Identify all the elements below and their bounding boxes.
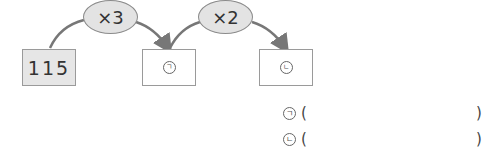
start-value-box: 115 [22, 49, 76, 86]
answer-line-b[interactable]: ㄴ ( ) [283, 130, 483, 150]
open-paren: ( [301, 130, 307, 148]
blank-box-a[interactable]: ㄱ [142, 49, 196, 86]
circled-giyeok-mark: ㄱ [283, 107, 296, 120]
operation-times-3: ×3 [83, 0, 138, 34]
open-paren: ( [301, 104, 307, 122]
close-paren: ) [476, 104, 482, 122]
circled-nieun-mark: ㄴ [283, 133, 296, 146]
blank-box-b[interactable]: ㄴ [259, 49, 313, 86]
close-paren: ) [476, 130, 482, 148]
operation-label: ×2 [212, 7, 239, 28]
circled-nieun-mark: ㄴ [280, 61, 293, 74]
operation-label: ×3 [97, 7, 124, 28]
start-value: 115 [28, 57, 70, 79]
operation-times-2: ×2 [198, 0, 253, 34]
circled-giyeok-mark: ㄱ [163, 61, 176, 74]
answer-line-a[interactable]: ㄱ ( ) [283, 104, 483, 124]
